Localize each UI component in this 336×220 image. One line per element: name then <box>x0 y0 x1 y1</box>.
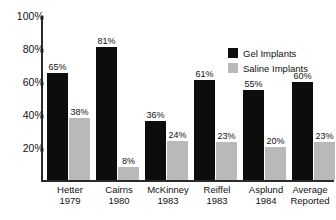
x-label-cairns: Cairns 1980 <box>92 184 146 206</box>
bar-value-gel-hetter: 65% <box>48 62 66 72</box>
bar-value-saline-average-reported: 23% <box>315 131 333 141</box>
bar-saline-cairns[interactable]: 8% <box>118 167 139 180</box>
bar-saline-reiffel[interactable]: 23% <box>216 142 237 180</box>
x-label-hetter: Hetter 1979 <box>43 184 97 206</box>
bar-group-hetter: 65% 38% <box>47 16 91 180</box>
bar-saline-asplund[interactable]: 20% <box>265 147 286 180</box>
bar-gel-reiffel[interactable]: 61% <box>194 80 215 180</box>
x-label-cairns-line1: Cairns <box>92 184 146 195</box>
legend-swatch-saline-icon <box>228 63 238 73</box>
legend-swatch-gel-icon <box>228 48 238 58</box>
x-label-hetter-line1: Hetter <box>43 184 97 195</box>
y-tick-label-100: 100% <box>0 11 44 22</box>
bar-gel-asplund[interactable]: 55% <box>243 90 264 180</box>
x-label-hetter-line2: 1979 <box>43 195 97 206</box>
bar-value-saline-hetter: 38% <box>70 107 88 117</box>
bar-value-gel-mckinney: 36% <box>146 110 164 120</box>
bar-group-mckinney: 36% 24% <box>145 16 189 180</box>
x-label-average-reported: Average Reported <box>283 184 336 206</box>
bar-group-asplund: 55% 20% <box>243 16 287 180</box>
x-label-mckinney: McKinney 1983 <box>141 184 195 206</box>
x-label-mckinney-line2: 1983 <box>141 195 195 206</box>
x-label-average-reported-line2: Reported <box>283 195 336 206</box>
bar-value-saline-mckinney: 24% <box>168 130 186 140</box>
bar-group-average-reported: 60% 23% <box>292 16 336 180</box>
bar-group-reiffel: 61% 23% <box>194 16 238 180</box>
legend-item-gel-implants[interactable]: Gel Implants <box>228 47 308 59</box>
bar-saline-hetter[interactable]: 38% <box>69 118 90 180</box>
x-axis-line <box>41 180 334 182</box>
legend-label-saline: Saline Implants <box>243 63 308 74</box>
legend-item-saline-implants[interactable]: Saline Implants <box>228 62 308 74</box>
bar-gel-cairns[interactable]: 81% <box>96 47 117 180</box>
bar-saline-mckinney[interactable]: 24% <box>167 141 188 180</box>
bar-value-gel-asplund: 55% <box>244 79 262 89</box>
chart-legend: Gel Implants Saline Implants <box>228 47 308 77</box>
x-label-mckinney-line1: McKinney <box>141 184 195 195</box>
bar-gel-hetter[interactable]: 65% <box>47 73 68 180</box>
x-label-reiffel-line1: Reiffel <box>190 184 244 195</box>
bar-value-gel-cairns: 81% <box>97 36 115 46</box>
bar-gel-mckinney[interactable]: 36% <box>145 121 166 180</box>
bar-gel-average-reported[interactable]: 60% <box>292 82 313 180</box>
x-label-reiffel-line2: 1983 <box>190 195 244 206</box>
legend-label-gel: Gel Implants <box>243 48 296 59</box>
y-tick-label-80: 80% <box>0 44 44 55</box>
y-tick-label-60: 60% <box>0 77 44 88</box>
x-label-cairns-line2: 1980 <box>92 195 146 206</box>
bar-value-saline-asplund: 20% <box>266 136 284 146</box>
plot-area: 65% 38% 81% 8% 36% 24% <box>43 16 334 180</box>
x-label-average-reported-line1: Average <box>283 184 336 195</box>
bar-value-saline-reiffel: 23% <box>217 131 235 141</box>
bar-group-cairns: 81% 8% <box>96 16 140 180</box>
y-tick-label-40: 40% <box>0 110 44 121</box>
x-label-reiffel: Reiffel 1983 <box>190 184 244 206</box>
bar-value-saline-cairns: 8% <box>122 156 135 166</box>
y-tick-label-20: 20% <box>0 143 44 154</box>
bar-saline-average-reported[interactable]: 23% <box>314 142 335 180</box>
bar-value-gel-reiffel: 61% <box>195 69 213 79</box>
bar-chart: 100% 80% 60% 40% 20% 65% 38% 81% 8% 36% <box>0 0 336 220</box>
